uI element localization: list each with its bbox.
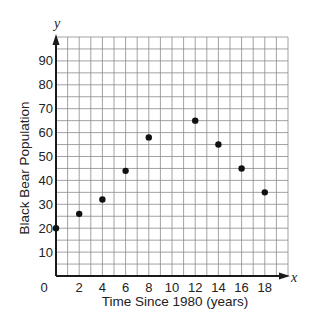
x-tick-label: 10 [165, 280, 179, 295]
y-tick-labels: 102030405060708090 [39, 53, 53, 259]
x-tick-label: 2 [76, 280, 83, 295]
y-axis-arrow-icon [53, 34, 60, 45]
data-point [215, 141, 221, 147]
x-tick-label: 18 [258, 280, 272, 295]
data-point [146, 134, 152, 140]
y-tick-label: 60 [39, 125, 53, 140]
data-point [122, 168, 128, 174]
x-tick-label: 4 [99, 280, 106, 295]
y-tick-label: 90 [39, 53, 53, 68]
data-point [238, 165, 244, 171]
x-tick-label: 8 [145, 280, 152, 295]
x-tick-label: 6 [122, 280, 129, 295]
y-variable-label: y [52, 16, 61, 31]
y-tick-label: 20 [39, 221, 53, 236]
grid [56, 37, 288, 276]
x-variable-label: x [290, 270, 298, 285]
data-point [99, 196, 105, 202]
y-tick-label: 40 [39, 173, 53, 188]
x-tick-labels: 024681012141618 [40, 280, 272, 295]
y-tick-label: 70 [39, 101, 53, 116]
y-axis-title: Black Bear Population [17, 102, 32, 235]
y-tick-label: 30 [39, 197, 53, 212]
data-point [192, 117, 198, 123]
data-point [76, 211, 82, 217]
data-point [262, 189, 268, 195]
x-tick-label: 14 [211, 280, 225, 295]
x-axis-title: Time Since 1980 (years) [102, 294, 249, 309]
data-point [53, 225, 59, 231]
x-tick-label: 16 [234, 280, 248, 295]
x-tick-label: 12 [188, 280, 202, 295]
y-tick-label: 80 [39, 77, 53, 92]
y-tick-label: 50 [39, 149, 53, 164]
x-tick-label: 0 [40, 280, 47, 295]
y-tick-label: 10 [39, 245, 53, 260]
scatter-chart: 024681012141618 102030405060708090 y x T… [0, 0, 315, 333]
